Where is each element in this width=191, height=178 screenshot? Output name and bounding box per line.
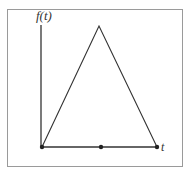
x-axis-label: t [161,140,165,154]
end-dot [155,145,159,149]
pulse-curve [42,26,157,147]
origin-dot [40,145,44,149]
triangle-pulse-diagram: f(t) t [0,0,191,178]
midpoint-dot [99,145,103,149]
y-axis-label: f(t) [36,8,52,23]
